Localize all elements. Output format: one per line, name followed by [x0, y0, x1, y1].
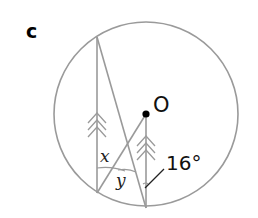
- angle-label-16: 16°: [166, 151, 201, 175]
- center-label: O: [153, 93, 170, 117]
- center-point: [142, 110, 149, 117]
- angle-pointer: [145, 169, 164, 188]
- angle-label-x: x: [100, 146, 110, 166]
- geometry-diagram: O x y 16°: [0, 0, 258, 218]
- angle-label-y: y: [115, 170, 126, 190]
